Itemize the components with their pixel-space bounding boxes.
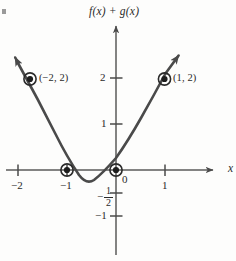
plot-canvas <box>0 0 236 261</box>
curve-arrow-right <box>166 56 179 74</box>
x-tick-label-1: 1 <box>162 180 168 191</box>
curve-arrow-left <box>15 58 18 64</box>
y-axis-title: f(x) + g(x) <box>89 6 139 18</box>
point-label--2-2: (−2, 2) <box>39 73 68 84</box>
y-tick-label--1: −1 <box>95 210 107 221</box>
fraction-minus-sign: − <box>97 191 103 202</box>
x-tick-label--2: −2 <box>11 180 23 191</box>
fraction-denominator: 2 <box>104 198 113 208</box>
x-tick-label--1: −1 <box>60 180 72 191</box>
x-axis-title: x <box>228 163 233 175</box>
graph-figure: f(x) + g(x) x −2 −1 1 0 2 1 −1 − 1 2 (−2… <box>0 0 236 261</box>
y-axis <box>110 26 123 255</box>
y-tick-label-2: 2 <box>100 72 106 83</box>
fraction-numerator: 1 <box>104 186 113 196</box>
y-tick-label--one-half: − 1 2 <box>104 186 113 208</box>
y-tick-label-1: 1 <box>101 118 107 129</box>
point-label-1-2: (1, 2) <box>173 73 196 84</box>
origin-label: 0 <box>122 174 128 185</box>
